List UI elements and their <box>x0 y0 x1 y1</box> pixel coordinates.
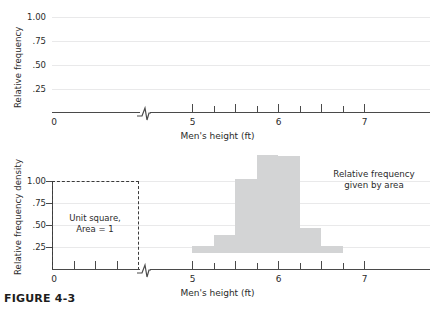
area-annotation: Relative frequency given by area <box>318 169 430 191</box>
figure-caption: FIGURE 4-3 <box>4 292 75 305</box>
figure-4-3: Relative frequency 1.00 .75 .50 .25 0 <box>0 0 435 313</box>
x-axis-left-stub-bottom <box>52 269 140 270</box>
bars-top <box>0 0 435 112</box>
x-axis-left-stub-top <box>52 112 140 113</box>
chart-relative-frequency-density: Relative frequency density 1.00 .75 .50 … <box>0 155 435 285</box>
x-axis-right-top <box>150 112 430 113</box>
x-axis-title-top: Men's height (ft) <box>0 131 435 141</box>
x-origin-label-top: 0 <box>44 117 64 127</box>
x-origin-label-bottom: 0 <box>44 274 64 284</box>
x-axis-right-bottom <box>150 269 430 270</box>
chart-relative-frequency: Relative frequency 1.00 .75 .50 .25 0 <box>0 0 435 148</box>
